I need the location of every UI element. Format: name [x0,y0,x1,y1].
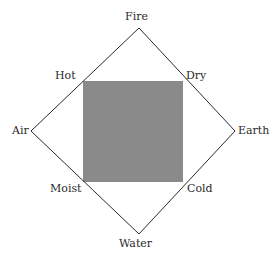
label-water: Water [119,238,152,249]
label-air: Air [12,125,29,136]
qualities-square [83,81,183,182]
elements-diagram: Fire Air Earth Water Hot Dry Moist Cold [0,0,280,258]
label-hot: Hot [55,70,76,81]
label-earth: Earth [238,125,269,136]
label-fire: Fire [125,11,148,22]
label-dry: Dry [186,70,206,81]
label-moist: Moist [50,183,81,194]
label-cold: Cold [187,183,213,194]
